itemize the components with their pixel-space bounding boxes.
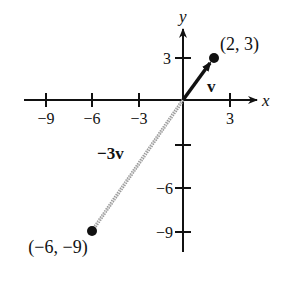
x-tick-label: −6 [83, 110, 100, 127]
y-tick-label: 3 [163, 50, 171, 67]
x-tick-label: 3 [226, 110, 234, 127]
point-2-3 [209, 53, 219, 63]
x-tick-label: −9 [37, 110, 54, 127]
x-tick-label: −3 [130, 110, 147, 127]
vector-v [183, 63, 210, 100]
vector-neg3v-label: −3v [97, 144, 124, 163]
point-neg6-neg9-label: (−6, −9) [28, 237, 87, 258]
y-tick-label: −6 [156, 180, 173, 197]
point-neg6-neg9 [87, 226, 97, 236]
y-axis-label: y [177, 7, 187, 26]
x-axis-label: x [261, 91, 270, 110]
vector-diagram: x y −9 −6 −3 3 3 −6 −9 −3v v (2, 3) (−6,… [0, 0, 289, 282]
y-tick-label: −9 [156, 224, 173, 241]
vector-v-label: v [207, 77, 216, 96]
point-2-3-label: (2, 3) [220, 34, 259, 55]
